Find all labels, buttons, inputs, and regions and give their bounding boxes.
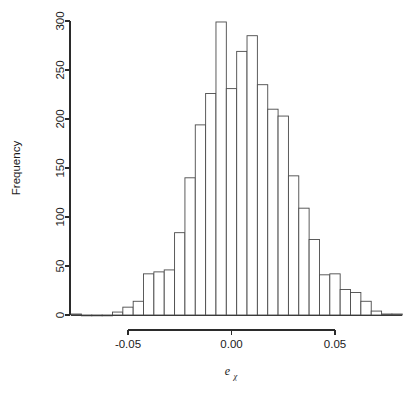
histogram-bar	[144, 274, 154, 315]
histogram-bar	[195, 125, 205, 315]
histogram-bar	[226, 89, 236, 315]
histogram-bar	[330, 274, 340, 315]
histogram-bar	[164, 270, 174, 315]
histogram-bar	[361, 301, 371, 315]
histogram-bar	[319, 275, 329, 315]
y-tick-label-300: 300	[54, 11, 66, 30]
histogram-plot: 050100150200250300 Frequency -0.050.000.…	[0, 0, 417, 393]
y-tick-label-250: 250	[54, 60, 66, 79]
histogram-bar	[185, 178, 195, 315]
x-tick-label-0.05: 0.05	[324, 338, 346, 350]
x-axis-ticks	[128, 330, 335, 335]
histogram-bar	[123, 307, 133, 315]
histogram-bar	[216, 22, 226, 315]
x-axis-title-main: e	[225, 364, 231, 378]
histogram-bar	[133, 301, 143, 315]
y-tick-label-100: 100	[54, 207, 66, 226]
x-axis-title-subscript: χ	[233, 371, 238, 381]
histogram-bar	[247, 36, 257, 315]
histogram-bar	[351, 292, 361, 315]
x-axis-tick-labels: -0.050.000.05	[115, 338, 346, 350]
y-axis-tick-labels: 050100150200250300	[54, 11, 66, 318]
histogram-bar	[257, 85, 267, 315]
histogram-bar	[175, 233, 185, 315]
histogram-bar	[154, 272, 164, 315]
y-tick-label-0: 0	[54, 312, 66, 318]
histogram-bar	[371, 311, 381, 315]
histogram-bar	[237, 51, 247, 315]
histogram-bars	[71, 22, 402, 316]
y-tick-label-150: 150	[54, 158, 66, 177]
histogram-bar	[288, 176, 298, 315]
histogram-bar	[268, 109, 278, 315]
y-axis-title: Frequency	[10, 141, 22, 196]
y-tick-label-200: 200	[54, 109, 66, 128]
histogram-bar	[278, 116, 288, 315]
x-tick-label--0.05: -0.05	[115, 338, 141, 350]
x-axis-title: e χ	[225, 364, 238, 381]
histogram-bar	[340, 290, 350, 315]
histogram-bar	[206, 94, 216, 315]
histogram-bar	[309, 240, 319, 315]
histogram-bar	[299, 208, 309, 315]
x-tick-label-0.00: 0.00	[220, 338, 242, 350]
y-tick-label-50: 50	[54, 260, 66, 273]
histogram-svg: 050100150200250300 Frequency -0.050.000.…	[0, 0, 417, 393]
